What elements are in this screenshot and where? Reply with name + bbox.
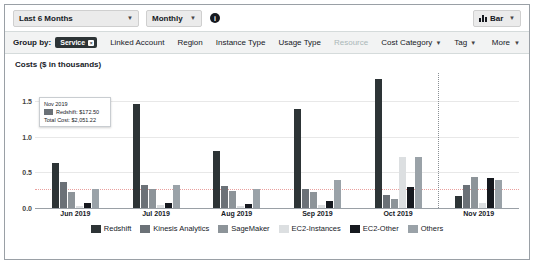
y-axis: 0.00.51.01.5 — [13, 73, 35, 208]
bar[interactable] — [463, 185, 470, 208]
legend-item[interactable]: EC2-Other — [350, 224, 399, 233]
tooltip-series: Redshift: $172.50 — [56, 109, 99, 115]
bar[interactable] — [173, 185, 180, 208]
legend-item[interactable]: Redshift — [91, 224, 132, 233]
bar[interactable] — [455, 196, 462, 208]
bar[interactable] — [84, 203, 91, 208]
legend-swatch — [91, 225, 101, 233]
bar[interactable] — [334, 180, 341, 208]
legend-label: Kinesis Analytics — [153, 224, 209, 233]
info-icon[interactable]: i — [210, 13, 220, 23]
group-by-cost-category[interactable]: Cost Category▼ — [381, 38, 441, 47]
bar[interactable] — [495, 180, 502, 208]
legend-swatch — [279, 225, 289, 233]
group-by-dimensions: Linked AccountRegionInstance TypeUsage T… — [97, 38, 476, 47]
bar-group — [438, 73, 519, 208]
legend-label: EC2-Instances — [292, 224, 341, 233]
chevron-down-icon: ▼ — [190, 15, 196, 21]
group-by-usage-type[interactable]: Usage Type — [278, 38, 321, 47]
date-range-value: Last 6 Months — [19, 14, 73, 23]
y-axis-tick: 0.0 — [22, 205, 32, 212]
bar-group — [35, 73, 116, 208]
x-axis-label: Jun 2019 — [35, 210, 116, 217]
group-by-instance-type[interactable]: Instance Type — [216, 38, 266, 47]
bar[interactable] — [407, 187, 414, 208]
bar[interactable] — [471, 177, 478, 208]
bar[interactable] — [310, 192, 317, 208]
more-label: More — [492, 38, 510, 47]
group-by-item-label: Linked Account — [110, 38, 164, 47]
x-axis-label: Oct 2019 — [358, 210, 439, 217]
legend-swatch — [350, 225, 360, 233]
chevron-down-icon: ▼ — [509, 15, 515, 21]
bar[interactable] — [52, 163, 59, 208]
legend-item[interactable]: Others — [408, 224, 444, 233]
bar[interactable] — [245, 204, 252, 208]
legend-label: Others — [421, 224, 444, 233]
bar[interactable] — [60, 182, 67, 208]
bar[interactable] — [165, 203, 172, 208]
bar[interactable] — [149, 189, 156, 208]
x-axis-label: Aug 2019 — [196, 210, 277, 217]
group-by-item-label: Usage Type — [278, 38, 321, 47]
bar[interactable] — [391, 199, 398, 208]
group-by-tag[interactable]: Tag▼ — [454, 38, 476, 47]
bar[interactable] — [375, 79, 382, 208]
granularity-select[interactable]: Monthly ▼ — [146, 10, 202, 27]
legend-swatch — [140, 225, 150, 233]
bar[interactable] — [294, 109, 301, 208]
bar[interactable] — [383, 195, 390, 208]
legend-item[interactable]: EC2-Instances — [279, 224, 341, 233]
y-axis-tick: 1.0 — [22, 133, 32, 140]
group-by-region[interactable]: Region — [177, 38, 202, 47]
pill-label: Service — [60, 39, 85, 46]
group-by-bar: Group by: Service × Linked AccountRegion… — [5, 31, 529, 54]
bar[interactable] — [229, 191, 236, 208]
group-by-pill-service[interactable]: Service × — [55, 37, 97, 48]
group-by-resource: Resource — [334, 38, 368, 47]
bar[interactable] — [68, 192, 75, 208]
bar[interactable] — [487, 178, 494, 208]
chart-toolbar: Last 6 Months ▼ Monthly ▼ i Bar ▼ — [5, 5, 529, 31]
bar[interactable] — [237, 206, 244, 208]
chart-area: Costs ($ in thousands) 0.00.51.01.5 Nov … — [5, 54, 529, 233]
legend-label: EC2-Other — [363, 224, 399, 233]
chevron-down-icon: ▼ — [127, 15, 133, 21]
bar[interactable] — [76, 206, 83, 208]
date-range-select[interactable]: Last 6 Months ▼ — [13, 10, 139, 27]
bar[interactable] — [399, 157, 406, 208]
bar[interactable] — [92, 189, 99, 208]
group-by-item-label: Resource — [334, 38, 368, 47]
bar[interactable] — [133, 104, 140, 208]
tooltip-total: Total Cost: $2,051.22 — [44, 117, 106, 123]
bar[interactable] — [302, 189, 309, 208]
bar[interactable] — [141, 185, 148, 208]
legend-item[interactable]: Kinesis Analytics — [140, 224, 209, 233]
group-by-label: Group by: — [13, 38, 51, 47]
x-axis-label: Sep 2019 — [277, 210, 358, 217]
close-icon[interactable]: × — [88, 40, 94, 46]
chevron-down-icon: ▼ — [470, 40, 476, 46]
chart-tooltip: Nov 2019 Redshift: $172.50 Total Cost: $… — [39, 97, 111, 127]
chart-legend: RedshiftKinesis AnalyticsSageMakerEC2-In… — [5, 224, 529, 233]
chart-type-value: Bar — [490, 14, 503, 23]
x-axis-label: Nov 2019 — [438, 210, 519, 217]
bar[interactable] — [157, 205, 164, 208]
bar[interactable] — [221, 186, 228, 208]
bar[interactable] — [213, 151, 220, 208]
chart-type-select[interactable]: Bar ▼ — [473, 10, 521, 27]
bar[interactable] — [326, 201, 333, 208]
legend-item[interactable]: SageMaker — [218, 224, 269, 233]
bar-group — [116, 73, 197, 208]
x-axis: Jun 2019Jul 2019Aug 2019Sep 2019Oct 2019… — [35, 210, 519, 217]
group-by-linked-account[interactable]: Linked Account — [110, 38, 164, 47]
group-by-item-label: Region — [177, 38, 202, 47]
plot-region: 0.00.51.01.5 Nov 2019 Redshift: $172.50 … — [13, 73, 521, 208]
bar[interactable] — [253, 189, 260, 208]
bar[interactable] — [415, 157, 422, 208]
legend-swatch — [408, 225, 418, 233]
bar[interactable] — [318, 205, 325, 208]
group-by-item-label: Cost Category — [381, 38, 432, 47]
bar[interactable] — [479, 203, 486, 208]
group-by-more[interactable]: More ▼ — [492, 38, 520, 47]
